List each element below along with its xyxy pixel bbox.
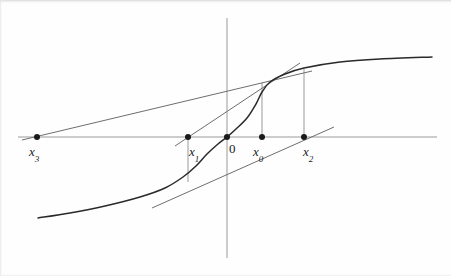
label-x0: x0 — [253, 145, 263, 162]
label-x2-base: x — [303, 144, 309, 159]
figure-canvas — [0, 0, 451, 276]
label-x2-subscript: 2 — [309, 154, 314, 164]
label-origin: 0 — [229, 142, 236, 155]
tangent-at-x1-line — [152, 127, 334, 208]
point-marker-x0 — [259, 134, 265, 140]
label-x0-base: x — [253, 144, 259, 159]
newton-method-figure: x3x10x0x2 — [0, 0, 451, 276]
tangent-lines-group — [22, 63, 334, 208]
point-marker-x2 — [301, 134, 307, 140]
point-marker-origin — [224, 134, 230, 140]
label-x2: x2 — [303, 145, 313, 162]
label-x3-subscript: 3 — [35, 154, 40, 164]
tangent-at-x2-line — [22, 71, 312, 140]
label-x0-subscript: 0 — [259, 154, 264, 164]
label-x3: x3 — [29, 145, 39, 162]
label-x1-base: x — [189, 144, 195, 159]
label-x1: x1 — [189, 145, 199, 162]
label-x1-subscript: 1 — [195, 154, 200, 164]
label-x3-base: x — [29, 144, 35, 159]
point-marker-x3 — [34, 134, 40, 140]
point-marker-x1 — [185, 134, 191, 140]
